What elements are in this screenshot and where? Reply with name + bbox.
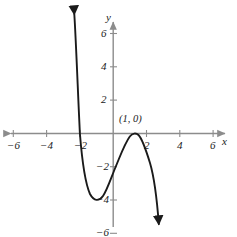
x-tick-label-2: 2 [144,139,150,151]
cubic-curve-path [74,14,159,224]
y-axis-label: y [106,11,111,23]
y-tick-label-6: 6 [101,27,107,39]
y-tick-label--2: −2 [96,160,109,172]
x-axis [11,130,225,137]
y-tick-label-4: 4 [101,60,107,72]
y-tick-label-2: 2 [101,93,107,105]
x-tick-label--2: −2 [74,139,87,151]
y-tick-label--6: −6 [96,226,109,237]
x-tick-label--6: −6 [7,139,20,151]
x-tick-label--4: −4 [40,139,53,151]
local-max-point-label: (1, 0) [119,113,142,124]
x-tick-label-4: 4 [177,139,183,151]
x-axis-label: x [222,135,227,147]
x-tick-label-6: 6 [210,139,216,151]
y-axis [110,22,117,233]
y-tick-label--4: −4 [96,193,109,205]
function-curve [74,14,159,224]
graph-figure: −6 −4 −2 2 4 6 6 4 2 −2 −4 −6 y x (1, 0) [0,0,237,237]
